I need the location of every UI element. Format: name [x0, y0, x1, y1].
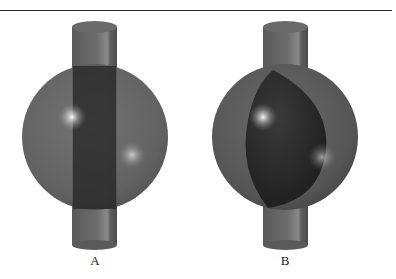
cylinder-b-bottom — [263, 240, 308, 250]
figure-canvas — [0, 0, 396, 279]
panel-b — [212, 21, 358, 250]
panel-label-b: B — [270, 253, 300, 269]
cylinder-a-top — [72, 21, 117, 33]
highlight-b1 — [249, 103, 277, 131]
highlight-a2 — [118, 141, 146, 169]
cylinder-a-bottom — [72, 240, 117, 250]
panel-label-a: A — [80, 253, 110, 269]
highlight-a1 — [58, 103, 86, 131]
highlight-b2 — [308, 143, 336, 171]
cylinder-a-core — [73, 66, 116, 209]
cylinder-b-top — [263, 21, 308, 33]
panel-a — [22, 21, 168, 250]
